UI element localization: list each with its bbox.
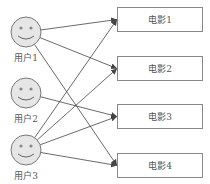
movie-node-2: 电影2: [117, 56, 203, 81]
user-label-2: 用户2: [13, 112, 39, 125]
movie-label-1: 电影1: [148, 13, 172, 26]
edge-arrow: [41, 97, 117, 117]
smiley-face-icon: [11, 135, 41, 165]
user-label-3: 用户3: [13, 169, 39, 182]
edge-arrow: [40, 117, 117, 145]
edge-arrow: [40, 38, 117, 69]
movie-label-3: 电影3: [148, 110, 172, 123]
movie-label-2: 电影2: [148, 62, 172, 75]
movie-node-4: 电影4: [117, 153, 203, 178]
smiley-face-icon: [11, 78, 41, 108]
edge-arrow: [35, 20, 117, 138]
edge-arrow: [41, 153, 117, 166]
edge-arrow: [37, 69, 117, 140]
smiley-face-icon: [11, 17, 41, 47]
movie-label-4: 电影4: [148, 159, 172, 172]
user-nodes: [11, 17, 41, 165]
edge-arrow: [41, 20, 117, 30]
edges: [34, 20, 117, 166]
user-label-1: 用户1: [13, 51, 39, 64]
movie-node-3: 电影3: [117, 104, 203, 129]
movie-node-1: 电影1: [117, 7, 203, 32]
